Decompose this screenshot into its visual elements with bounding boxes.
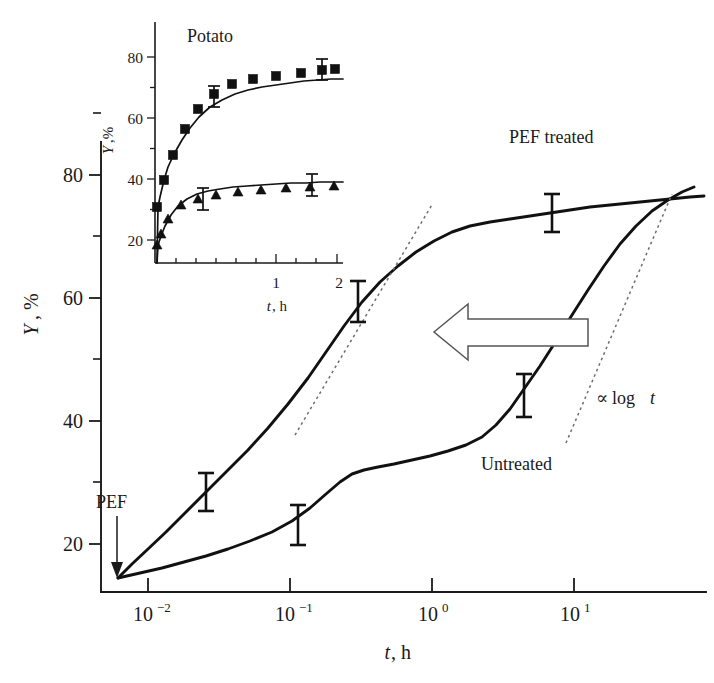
main-x-tick-label-1e-1: 10 −1	[275, 600, 313, 625]
marker-square	[331, 65, 340, 74]
inset-y-axis-title: Y ,%	[100, 127, 116, 154]
main-y-tick-label-20: 20	[63, 533, 83, 555]
marker-triangle	[211, 190, 221, 199]
log-law-var: t	[650, 388, 656, 408]
main-y-tick-label-40: 40	[63, 410, 83, 432]
main-x-axis	[101, 578, 706, 592]
main-y-tick-labels: 80 60 40 20	[63, 164, 83, 555]
main-x-tick-base-1: 10	[133, 603, 153, 625]
main-x-tick-base-4: 10	[560, 603, 580, 625]
inset-y-tick-label-80: 80	[128, 49, 144, 66]
inset-chart: 80 60 40 20 Y ,% 1 2 t , h	[100, 22, 343, 314]
main-x-axis-title-var: t	[384, 641, 390, 663]
main-y-axis	[89, 113, 101, 592]
inset-x-axis-title-unit: , h	[272, 298, 288, 314]
marker-square	[181, 125, 190, 134]
inset-y-tick-label-40: 40	[128, 171, 144, 188]
inset-markers-triangles	[152, 181, 339, 249]
inset-y-axis-title-unit: ,%	[100, 127, 116, 143]
marker-triangle	[233, 187, 243, 196]
label-pef-treated: PEF treated	[509, 127, 593, 147]
main-x-tick-label-1e1: 10 1	[560, 600, 591, 625]
label-untreated: Untreated	[481, 454, 552, 474]
tangent-pef-treated-log	[295, 203, 433, 435]
main-y-tick-label-60: 60	[63, 287, 83, 309]
log-law-symbol: ∝	[596, 388, 608, 408]
errorbar-pef-1	[198, 473, 214, 511]
leftward-shift-arrow-icon	[434, 304, 588, 360]
main-x-tick-labels: 10 −2 10 −1 10 0 10 1	[133, 600, 591, 625]
marker-square	[169, 151, 178, 160]
figure-root: 80 60 40 20 Y , % 10 −2 10 −1	[0, 0, 714, 683]
main-x-axis-title-unit: , h	[391, 641, 411, 663]
main-x-axis-title: t , h	[384, 641, 411, 663]
main-x-tick-base-2: 10	[275, 603, 295, 625]
inset-y-tick-label-60: 60	[128, 110, 144, 127]
label-log-law: ∝ log t	[596, 388, 656, 408]
series-untreated-curve	[118, 187, 694, 578]
marker-square	[297, 69, 306, 78]
pef-marker-label: PEF	[96, 492, 127, 512]
inset-errorbar-triangles-2	[306, 174, 318, 196]
inset-series-triangles-curve	[157, 182, 343, 263]
inset-x-axis-title: t , h	[267, 298, 288, 314]
main-x-tick-exp-1: −2	[157, 600, 171, 615]
inset-series-squares-curve	[157, 79, 343, 263]
main-x-tick-exp-4: 1	[584, 600, 591, 615]
main-x-tick-exp-2: −1	[299, 600, 313, 615]
main-x-tick-label-1e0: 10 0	[418, 600, 449, 625]
marker-square	[272, 72, 281, 81]
inset-y-tick-label-20: 20	[128, 232, 144, 249]
main-x-tick-base-3: 10	[418, 603, 438, 625]
inset-x-tick-label-2: 2	[335, 274, 343, 291]
inset-x-tick-label-1: 1	[272, 274, 280, 291]
main-x-tick-label-1e-2: 10 −2	[133, 600, 171, 625]
main-x-tick-exp-3: 0	[442, 600, 449, 615]
marker-square	[228, 80, 237, 89]
main-y-axis-title-var: Y	[20, 323, 42, 336]
marker-square	[249, 75, 258, 84]
marker-square	[153, 203, 162, 212]
marker-square	[160, 176, 169, 185]
series-pef-treated-curve	[118, 196, 704, 578]
inset-y-axis-title-var: Y	[100, 144, 116, 154]
main-y-axis-title: Y , %	[20, 293, 42, 335]
marker-triangle	[152, 240, 162, 249]
main-y-tick-label-80: 80	[63, 164, 83, 186]
log-law-text: log	[612, 388, 635, 408]
inset-heading-potato: Potato	[187, 26, 233, 46]
marker-triangle	[256, 185, 266, 194]
chart-canvas: 80 60 40 20 Y , % 10 −2 10 −1	[0, 0, 714, 683]
main-y-axis-title-unit: , %	[20, 293, 42, 320]
marker-square	[194, 105, 203, 114]
